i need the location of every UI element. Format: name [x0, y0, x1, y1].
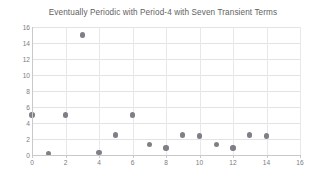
chart-title: Eventually Periodic with Period-4 with S…	[0, 8, 326, 17]
x-axis-tick-label: 0	[22, 159, 42, 167]
x-axis-tick-mark	[66, 155, 67, 158]
x-axis-tick-label: 12	[223, 159, 243, 167]
gridline-vertical	[133, 27, 134, 155]
x-axis-tick-label: 2	[56, 159, 76, 167]
x-axis-tick-mark	[133, 155, 134, 158]
y-axis-tick-label: 4	[4, 120, 30, 127]
x-axis-tick-labels: 0246810121416	[32, 159, 312, 171]
plot-area	[32, 27, 300, 155]
x-axis-tick-label: 6	[123, 159, 143, 167]
data-point	[113, 132, 118, 137]
x-axis-tick-label: 16	[290, 159, 310, 167]
data-point	[230, 145, 235, 150]
x-axis-tick-label: 10	[190, 159, 210, 167]
y-axis-tick-label: 10	[4, 72, 30, 79]
data-point	[214, 142, 219, 147]
y-axis-tick-label: 2	[4, 136, 30, 143]
y-axis-tick-label: 6	[4, 104, 30, 111]
data-point	[264, 133, 269, 138]
gridline-vertical	[66, 27, 67, 155]
y-axis-tick-labels: 0246810121416	[0, 0, 30, 178]
x-axis-tick-mark	[233, 155, 234, 158]
y-axis-tick-label: 8	[4, 88, 30, 95]
gridline-vertical	[233, 27, 234, 155]
scatter-chart: Eventually Periodic with Period-4 with S…	[0, 0, 326, 178]
data-point	[180, 132, 185, 137]
data-point	[197, 133, 202, 138]
x-axis-tick-mark	[267, 155, 268, 158]
data-point	[163, 145, 168, 150]
y-axis-tick-label: 16	[4, 24, 30, 31]
data-point	[80, 32, 85, 37]
plot-right-border	[300, 27, 301, 156]
x-axis-tick-mark	[32, 155, 33, 158]
x-axis-tick-mark	[99, 155, 100, 158]
x-axis-tick-mark	[200, 155, 201, 158]
data-point	[130, 112, 135, 117]
x-axis-tick-label: 4	[89, 159, 109, 167]
x-axis-tick-label: 14	[257, 159, 277, 167]
x-axis-tick-mark	[166, 155, 167, 158]
gridline-vertical	[166, 27, 167, 155]
data-point	[247, 132, 252, 137]
y-axis-tick-label: 12	[4, 56, 30, 63]
gridline-vertical	[99, 27, 100, 155]
y-axis-line	[32, 27, 33, 156]
data-point	[63, 112, 68, 117]
y-axis-tick-label: 14	[4, 40, 30, 47]
data-point	[147, 142, 152, 147]
x-axis-tick-mark	[300, 155, 301, 158]
x-axis-tick-label: 8	[156, 159, 176, 167]
y-axis-tick-label: 0	[4, 152, 30, 159]
